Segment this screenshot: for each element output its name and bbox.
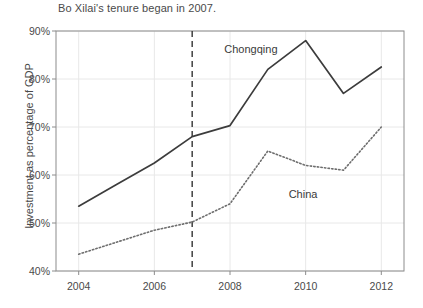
series-label-china: China xyxy=(289,188,318,200)
chart-container: Bo Xilai's tenure began in 2007. Investm… xyxy=(0,0,423,308)
series-label-chongqing: Chongqing xyxy=(224,43,277,55)
plot-area xyxy=(0,0,423,308)
